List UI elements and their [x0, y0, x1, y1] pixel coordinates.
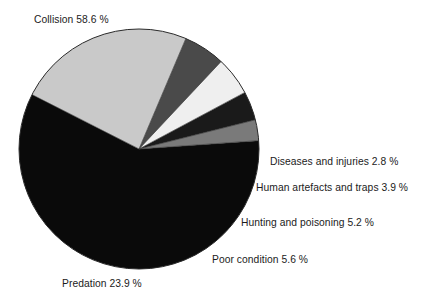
pie-label-collision: Collision 58.6 %	[34, 14, 109, 26]
pie-label-hunting-and-poisoning: Hunting and poisoning 5.2 %	[241, 217, 374, 229]
pie-chart-figure: Collision 58.6 % Diseases and injuries 2…	[0, 0, 431, 299]
pie-label-poor-condition: Poor condition 5.6 %	[212, 254, 308, 266]
pie-label-diseases-and-injuries: Diseases and injuries 2.8 %	[270, 156, 398, 168]
pie-label-human-artefacts-and-traps: Human artefacts and traps 3.9 %	[256, 182, 408, 194]
pie-label-predation: Predation 23.9 %	[62, 278, 142, 290]
